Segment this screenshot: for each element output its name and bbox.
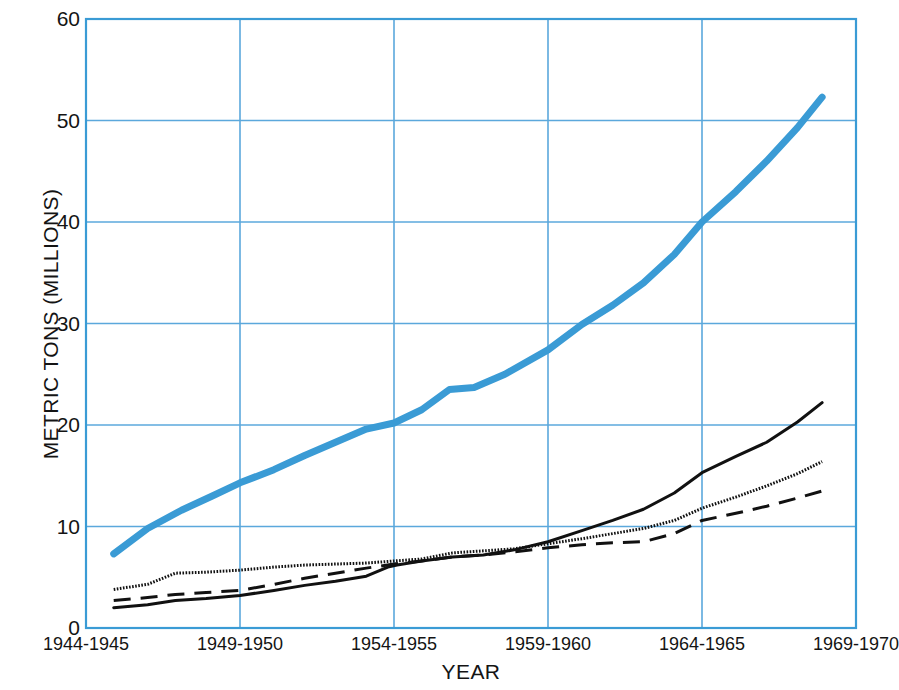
x-tick-label: 1954-1955 [351,634,437,655]
x-tick-label: 1969-1970 [813,634,899,655]
x-tick-label: 1944-1945 [43,634,129,655]
x-tick-label: 1949-1950 [197,634,283,655]
x-tick-label: 1959-1960 [505,634,591,655]
x-tick-label: 1964-1965 [659,634,745,655]
